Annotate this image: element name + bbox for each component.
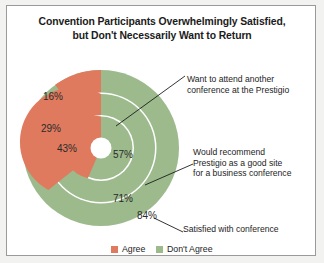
legend-swatch-agree [111, 246, 118, 253]
annotation-1-line-3: for a business conference [193, 168, 291, 179]
legend-item-dont-agree: Don't Agree [156, 244, 212, 254]
chart-legend: Agree Don't Agree [7, 244, 317, 254]
annotation-satisfied: Satisfied with conference [183, 224, 279, 235]
legend-label-dont-agree: Don't Agree [167, 244, 213, 254]
label-middle-agree: 29% [41, 123, 61, 134]
annotation-0-line-1: Want to attend another [187, 74, 289, 85]
legend-swatch-dont-agree [156, 246, 163, 253]
annotation-want-to-attend: Want to attend another conference at the… [187, 74, 289, 95]
annotation-2-line-1: Satisfied with conference [183, 224, 279, 235]
donut-chart: 16% 29% 43% 57% 71% 84% Want to attend a… [7, 6, 317, 257]
label-inner-disagree: 57% [113, 149, 133, 160]
chart-page: Convention Participants Overwhelmingly S… [0, 0, 324, 263]
label-outer-agree: 16% [43, 91, 63, 102]
label-outer-disagree: 84% [137, 210, 157, 221]
annotation-1-line-2: Prestigio as a good site [193, 158, 291, 169]
leader-line-outer [154, 218, 183, 232]
donut-center-hole [91, 138, 112, 159]
donut-chart-svg: 16% 29% 43% 57% 71% 84% [7, 6, 317, 257]
annotation-0-line-2: conference at the Prestigio [187, 85, 289, 96]
label-inner-agree: 43% [57, 143, 77, 154]
chart-frame: Convention Participants Overwhelmingly S… [6, 5, 316, 256]
legend-label-agree: Agree [122, 244, 145, 254]
annotation-would-recommend: Would recommend Prestigio as a good site… [193, 147, 291, 179]
legend-item-agree: Agree [111, 244, 145, 254]
annotation-1-line-1: Would recommend [193, 147, 291, 158]
label-middle-disagree: 71% [113, 193, 133, 204]
